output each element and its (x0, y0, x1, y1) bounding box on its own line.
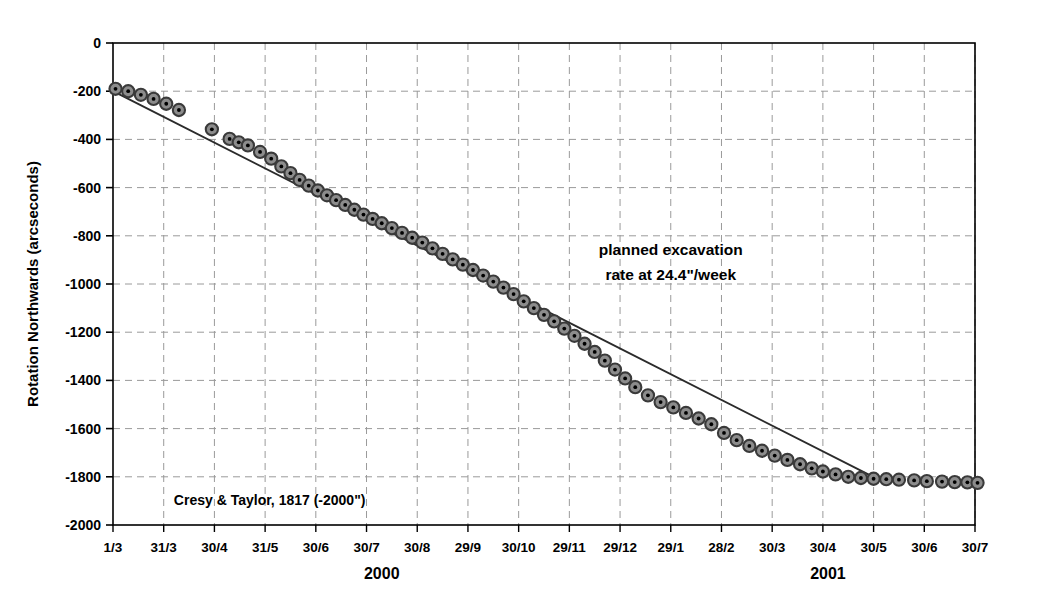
data-point (971, 477, 983, 489)
y-axis-tick-label: -1600 (65, 421, 101, 437)
x-axis-tick-label: 30/6 (303, 540, 330, 555)
planned-rate-annotation-line: planned excavation (599, 241, 743, 258)
y-axis-tick-label: -1000 (65, 276, 101, 292)
data-point (667, 401, 679, 413)
data-point (781, 454, 793, 466)
y-axis-tick-label: -600 (73, 180, 101, 196)
data-point (936, 476, 948, 488)
y-axis-tick-label: -800 (73, 228, 101, 244)
data-point (855, 472, 867, 484)
data-point (655, 396, 667, 408)
planned-rate-annotation-line: rate at 24.4"/week (605, 266, 736, 283)
data-point (842, 471, 854, 483)
x-axis-tick-label: 29/1 (658, 540, 685, 555)
data-point (769, 449, 781, 461)
y-axis-tick-label: -400 (73, 131, 101, 147)
x-axis-tick-label: 29/11 (553, 540, 587, 555)
data-point (718, 427, 730, 439)
data-point (756, 445, 768, 457)
data-point (135, 89, 147, 101)
data-point (629, 381, 641, 393)
y-axis-tick-label: -1400 (65, 372, 101, 388)
data-point (893, 474, 905, 486)
rotation-northwards-chart: 0-200-400-600-800-1000-1200-1400-1600-18… (0, 0, 1041, 609)
data-point (254, 146, 266, 158)
data-point (242, 139, 254, 151)
data-point (619, 372, 631, 384)
data-point (609, 363, 621, 375)
data-point (743, 440, 755, 452)
y-axis-tick-label: -1200 (65, 324, 101, 340)
x-axis-tick-label: 30/7 (353, 540, 379, 555)
data-point (206, 123, 218, 135)
x-axis-tick-label: 31/5 (252, 540, 279, 555)
data-point (160, 98, 172, 110)
source-annotation-line: Cresy & Taylor, 1817 (-2000") (174, 492, 366, 508)
data-point (589, 346, 601, 358)
data-point (921, 475, 933, 487)
data-point (829, 468, 841, 480)
data-point (949, 476, 961, 488)
x-axis-year-label: 2001 (810, 565, 846, 582)
x-axis-tick-label: 28/2 (708, 540, 734, 555)
data-point (122, 85, 134, 97)
x-axis-tick-label: 30/4 (810, 540, 837, 555)
data-point (908, 474, 920, 486)
x-axis-tick-label: 29/12 (603, 540, 637, 555)
x-axis-tick-label: 30/4 (201, 540, 228, 555)
x-axis-tick-label: 1/3 (104, 540, 123, 555)
x-axis-tick-label: 29/9 (455, 540, 481, 555)
chart-container: 0-200-400-600-800-1000-1200-1400-1600-18… (0, 0, 1041, 609)
data-point (599, 355, 611, 367)
x-axis-tick-label: 30/3 (759, 540, 786, 555)
source-annotation: Cresy & Taylor, 1817 (-2000") (174, 492, 366, 508)
data-point (794, 458, 806, 470)
y-axis-tick-label: -2000 (65, 517, 101, 533)
data-point (867, 473, 879, 485)
x-axis-tick-label: 30/8 (404, 540, 431, 555)
x-axis-tick-label: 30/10 (502, 540, 536, 555)
data-point (147, 93, 159, 105)
x-axis-tick-label: 30/6 (911, 540, 938, 555)
data-point (693, 412, 705, 424)
data-point (109, 83, 121, 95)
data-point (705, 418, 717, 430)
y-axis-tick-label: 0 (93, 35, 101, 51)
y-axis-tick-label: -1800 (65, 469, 101, 485)
y-axis-title: Rotation Northwards (arcseconds) (24, 161, 41, 407)
x-axis-tick-label: 31/3 (151, 540, 178, 555)
x-axis-tick-label: 30/5 (860, 540, 887, 555)
x-axis-year-label: 2000 (364, 565, 400, 582)
x-axis-tick-label: 30/7 (962, 540, 988, 555)
data-point (642, 389, 654, 401)
data-point (817, 465, 829, 477)
data-point (680, 407, 692, 419)
y-axis-tick-label: -200 (73, 83, 101, 99)
data-point (731, 434, 743, 446)
data-point (173, 104, 185, 116)
data-point (880, 473, 892, 485)
